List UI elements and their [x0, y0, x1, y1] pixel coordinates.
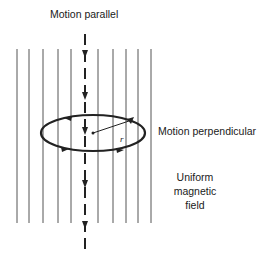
arrow-down-icon — [82, 221, 88, 229]
magnetic-field-diagram: r — [0, 0, 275, 263]
radius-label: r — [120, 134, 124, 144]
arrow-down-icon — [82, 127, 88, 135]
radius: r — [92, 121, 130, 144]
parallel-axis — [82, 34, 88, 253]
arrow-down-icon — [82, 50, 88, 58]
arrow-down-icon — [82, 180, 88, 188]
arrow-down-icon — [82, 92, 88, 100]
